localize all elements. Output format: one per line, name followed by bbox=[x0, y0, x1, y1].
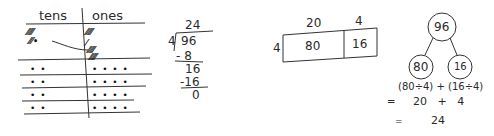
division-quotient: 24 bbox=[185, 18, 200, 32]
bond-line2: 20 + 4 bbox=[413, 95, 464, 108]
division-step1: - 8 bbox=[176, 49, 192, 63]
division-step2: 16 bbox=[185, 62, 200, 76]
bond-result: 24 bbox=[431, 114, 445, 127]
ones-dots-row4: • • • • bbox=[92, 104, 129, 113]
ones-bundles-b2: ⁄⁄⁄⁄⁄ bbox=[90, 54, 97, 62]
ones-header: ones bbox=[92, 8, 123, 23]
bond-eq2: = bbox=[395, 116, 403, 126]
bond-eq1: = bbox=[387, 96, 395, 107]
tens-dots-row2: • • bbox=[30, 78, 46, 87]
tens-header: tens bbox=[39, 8, 67, 23]
regroup-arrow bbox=[52, 41, 88, 50]
bond-whole: 96 bbox=[434, 20, 449, 34]
bond-expression: (80÷4) + (16÷4) bbox=[398, 81, 483, 92]
chart-divider bbox=[82, 8, 89, 118]
area-cell-right: 16 bbox=[352, 37, 367, 51]
ones-dots-row1: • • • • bbox=[92, 65, 129, 74]
bond-right: 16 bbox=[454, 61, 467, 72]
division-divisor: 4 bbox=[168, 34, 176, 48]
area-side-label: 4 bbox=[273, 41, 281, 55]
area-top-right-label: 4 bbox=[355, 14, 363, 28]
ones-bundles-top: ⁄⁄⁄⁄⁄ bbox=[86, 29, 93, 37]
tens-dots-row1: • • bbox=[30, 65, 46, 74]
area-cell-left: 80 bbox=[305, 39, 320, 53]
bond-left: 80 bbox=[413, 60, 428, 74]
tens-bundles-bottom: ⁄⁄⁄• bbox=[29, 38, 38, 46]
division-dividend: 96 bbox=[181, 34, 196, 48]
division-remainder: 0 bbox=[192, 88, 200, 102]
tens-dots-row4: • • bbox=[30, 104, 46, 113]
ones-dots-row3: • • • • bbox=[92, 91, 129, 100]
division-step3: -16 bbox=[180, 75, 200, 89]
area-top-left-label: 20 bbox=[306, 16, 321, 30]
tens-dots-row3: • • bbox=[30, 91, 46, 100]
ones-dots-row2: • • • • bbox=[92, 78, 129, 87]
tens-bundles-top: ⁄⁄⁄⁄⁄ bbox=[27, 29, 34, 37]
